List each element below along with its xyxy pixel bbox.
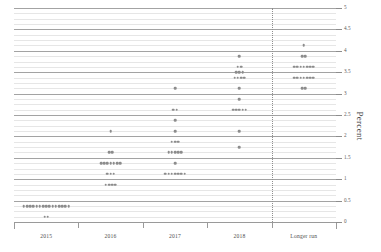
dot-marker: [164, 173, 167, 176]
dot-marker: [238, 98, 241, 101]
dot-marker: [35, 205, 38, 208]
dot-marker: [55, 205, 58, 208]
y-axis-tick-label: 3: [344, 91, 347, 96]
longer-run-separator: [272, 8, 273, 222]
y-axis-tick-label: 0: [344, 219, 347, 224]
gridline-minor: [14, 147, 336, 148]
y-axis-tick: [336, 179, 342, 180]
dot-marker: [109, 173, 112, 176]
gridline-major: [14, 72, 336, 73]
dot-marker: [183, 173, 186, 176]
x-axis-tick: [78, 222, 79, 228]
dot-marker: [238, 55, 241, 58]
dot-marker: [172, 108, 175, 111]
y-axis-tick: [336, 8, 342, 9]
gridline-minor: [14, 35, 336, 36]
dot-marker: [301, 87, 304, 90]
dot-marker: [243, 76, 246, 79]
dot-marker: [32, 205, 35, 208]
dot-marker: [51, 205, 54, 208]
gridline-major: [14, 179, 336, 180]
y-axis-tick-label: 1.5: [344, 155, 350, 160]
dot-marker: [312, 66, 315, 69]
gridline-minor: [14, 13, 336, 14]
dot-marker: [111, 183, 114, 186]
gridline-major: [14, 51, 336, 52]
dot-marker: [174, 130, 177, 133]
y-axis-title: Percent: [355, 111, 365, 140]
gridline-minor: [14, 19, 336, 20]
dot-marker: [48, 205, 51, 208]
dot-marker: [45, 205, 48, 208]
gridline-minor: [14, 83, 336, 84]
gridline-minor: [14, 40, 336, 41]
dot-marker: [177, 151, 180, 154]
dot-marker: [304, 87, 307, 90]
dot-marker: [43, 215, 46, 218]
x-axis-tick: [143, 222, 144, 228]
dot-marker: [167, 173, 170, 176]
x-axis-left-cap: [14, 222, 15, 229]
dot-marker: [296, 66, 299, 69]
gridline-minor: [14, 104, 336, 105]
gridline-minor: [14, 211, 336, 212]
dot-marker: [299, 66, 302, 69]
dot-marker: [237, 76, 240, 79]
x-axis-tick: [207, 222, 208, 228]
plot-area: [14, 8, 336, 222]
dot-marker: [67, 205, 70, 208]
dot-marker: [238, 71, 241, 74]
dot-marker: [180, 151, 183, 154]
dot-marker: [114, 183, 117, 186]
gridline-minor: [14, 185, 336, 186]
x-axis-right-cap: [336, 222, 337, 229]
dot-marker: [241, 108, 244, 111]
gridline-minor: [14, 67, 336, 68]
dot-plot-chart: Percent 00.511.522.533.544.5520152016201…: [0, 0, 381, 252]
dot-marker: [174, 119, 177, 122]
dot-marker: [29, 205, 32, 208]
dot-marker: [171, 173, 174, 176]
dot-marker: [235, 108, 238, 111]
gridline-minor: [14, 169, 336, 170]
x-axis-tick-label: 2015: [40, 233, 52, 239]
dot-marker: [180, 173, 183, 176]
gridline-minor: [14, 195, 336, 196]
dot-marker: [312, 76, 315, 79]
x-axis-line: [14, 222, 336, 223]
y-axis-tick-label: 1: [344, 177, 347, 182]
dot-marker: [303, 44, 306, 47]
dot-marker: [309, 66, 312, 69]
gridline-major: [14, 158, 336, 159]
dot-marker: [233, 76, 236, 79]
dot-marker: [238, 130, 241, 133]
y-axis-tick: [336, 29, 342, 30]
y-axis-tick-label: 2.5: [344, 112, 350, 117]
dot-marker: [175, 108, 178, 111]
dot-marker: [106, 173, 109, 176]
dot-marker: [171, 151, 174, 154]
gridline-major: [14, 94, 336, 95]
dot-marker: [238, 146, 241, 149]
dot-marker: [241, 71, 244, 74]
dot-marker: [238, 108, 241, 111]
gridline-major: [14, 115, 336, 116]
y-axis-tick: [336, 72, 342, 73]
dot-marker: [113, 173, 116, 176]
gridline-major: [14, 29, 336, 30]
gridline-minor: [14, 24, 336, 25]
dot-marker: [293, 66, 296, 69]
dot-marker: [61, 205, 64, 208]
gridline-minor: [14, 78, 336, 79]
gridline-minor: [14, 190, 336, 191]
y-axis-tick: [336, 222, 342, 223]
x-axis-tick-label: 2017: [169, 233, 181, 239]
x-axis-tick-label: 2018: [233, 233, 245, 239]
x-axis-tick: [272, 222, 273, 228]
x-axis-tick-label: 2016: [105, 233, 117, 239]
dot-marker: [103, 162, 106, 165]
dot-marker: [238, 87, 241, 90]
gridline-minor: [14, 56, 336, 57]
y-axis-tick: [336, 136, 342, 137]
dot-marker: [174, 162, 177, 165]
